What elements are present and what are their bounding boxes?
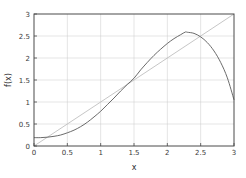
- x-tick-label: 2.5: [195, 149, 206, 157]
- x-tick-label: 1.5: [128, 149, 139, 157]
- x-tick-label: 0.5: [62, 149, 73, 157]
- y-tick-label: 3: [26, 11, 30, 19]
- chart-figure: 00.511.522.53 00.511.522.53 x f(x): [0, 0, 246, 178]
- y-axis-title: f(x): [4, 73, 13, 87]
- x-axis-title: x: [132, 163, 137, 172]
- y-tick-label: 1: [26, 99, 30, 107]
- x-tick-label: 2: [165, 149, 169, 157]
- plot-canvas: 00.511.522.53 00.511.522.53 x f(x): [0, 0, 246, 178]
- x-tick-label: 0: [32, 149, 36, 157]
- y-tick-label: 1.5: [19, 77, 30, 85]
- y-tick-label: 2: [26, 55, 30, 63]
- x-tick-label: 3: [232, 149, 236, 157]
- x-tick-label: 1: [98, 149, 102, 157]
- y-tick-label: 2.5: [19, 33, 30, 41]
- x-axis-tick-labels: 00.511.522.53: [32, 149, 236, 157]
- y-tick-label: 0: [26, 143, 30, 151]
- y-axis-tick-labels: 00.511.522.53: [19, 11, 30, 151]
- y-tick-label: 0.5: [19, 121, 30, 129]
